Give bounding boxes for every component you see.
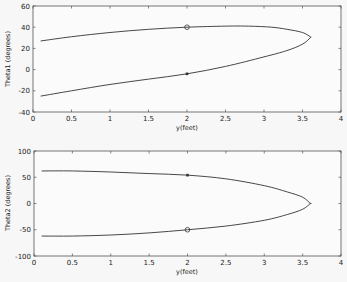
x-tick-label: 2.5 bbox=[220, 259, 231, 267]
x-tick-label: 3.5 bbox=[297, 259, 308, 267]
x-tick-label: 0 bbox=[31, 115, 35, 123]
x-tick-label: 1 bbox=[109, 259, 113, 267]
x-tick-label: 0 bbox=[32, 259, 36, 267]
figure: 00.511.522.533.54 6040200-20-40 y(feet) … bbox=[0, 0, 347, 282]
plot-area-bottom bbox=[34, 151, 341, 256]
square-marker bbox=[186, 73, 189, 76]
theta1-plot: 00.511.522.533.54 6040200-20-40 y(feet) … bbox=[4, 3, 344, 133]
y-tick-label: 60 bbox=[21, 3, 30, 11]
y-tick-label: 100 bbox=[18, 148, 31, 156]
x-tick-label: 3 bbox=[262, 115, 266, 123]
x-tick-label: 3.5 bbox=[297, 115, 308, 123]
x-tick-label: 4 bbox=[339, 115, 344, 123]
x-tick-label: 2 bbox=[185, 115, 189, 123]
x-axis-label-top: y(feet) bbox=[176, 124, 198, 132]
y-tick-label: -100 bbox=[15, 253, 31, 261]
square-marker bbox=[186, 174, 189, 177]
x-tick-label: 2 bbox=[185, 259, 189, 267]
y-tick-label: 20 bbox=[21, 45, 30, 53]
x-tick-label: 3 bbox=[262, 259, 266, 267]
y-tick-label: -50 bbox=[20, 226, 31, 234]
plot-area-top bbox=[33, 6, 341, 112]
y-tick-label: -20 bbox=[19, 87, 30, 95]
y-tick-label: 50 bbox=[22, 174, 31, 182]
x-tick-label: 1 bbox=[108, 115, 112, 123]
x-tick-label: 1.5 bbox=[144, 259, 155, 267]
y-tick-label: -40 bbox=[19, 109, 30, 117]
x-axis-label-bottom: y(feet) bbox=[176, 268, 198, 276]
x-tick-label: 0.5 bbox=[67, 259, 78, 267]
y-axis-label-bottom: Theta2 (degrees) bbox=[4, 175, 12, 232]
x-tick-label: 0.5 bbox=[66, 115, 77, 123]
y-axis-label-top: Theta1 (degrees) bbox=[4, 31, 12, 88]
theta2-plot: 00.511.522.533.54 100500-50-100 y(feet) … bbox=[4, 148, 344, 277]
x-tick-label: 2.5 bbox=[220, 115, 231, 123]
y-tick-label: 0 bbox=[26, 66, 30, 74]
x-tick-label: 1.5 bbox=[143, 115, 154, 123]
x-tick-label: 4 bbox=[339, 259, 344, 267]
y-tick-label: 40 bbox=[21, 24, 30, 32]
y-tick-label: 0 bbox=[27, 200, 31, 208]
